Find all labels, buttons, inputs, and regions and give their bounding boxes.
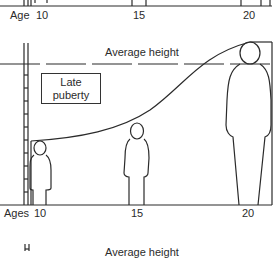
figure-age-20 <box>226 42 271 205</box>
top-axis-label: Age <box>10 9 30 21</box>
late-puberty-box: Late puberty <box>41 73 101 104</box>
top-tick-15: 15 <box>133 9 145 21</box>
main-panel <box>0 42 272 205</box>
figure-age-10 <box>30 141 51 205</box>
top-tick-20: 20 <box>243 9 255 21</box>
bottom-panel-remnant <box>25 244 29 251</box>
top-panel-remnant <box>0 0 272 6</box>
average-height-label: Average height <box>105 46 179 58</box>
late-puberty-line2: puberty <box>42 89 100 102</box>
main-tick-15: 15 <box>131 207 143 219</box>
top-tick-10: 10 <box>36 9 48 21</box>
main-axis-label: Ages <box>4 207 29 219</box>
bottom-average-height-label: Average height <box>105 246 179 258</box>
figure-age-15 <box>124 123 149 205</box>
main-tick-10: 10 <box>34 207 46 219</box>
main-tick-20: 20 <box>242 207 254 219</box>
late-puberty-line1: Late <box>42 76 100 89</box>
